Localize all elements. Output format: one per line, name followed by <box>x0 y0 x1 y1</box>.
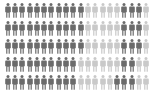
person-icon-dark <box>128 57 135 73</box>
person-icon-light <box>84 21 91 37</box>
person-icon-dark <box>4 21 11 37</box>
person-icon-dark <box>135 39 142 55</box>
person-icon-light <box>143 75 150 91</box>
person-icon-light <box>135 57 142 73</box>
person-icon-dark <box>33 21 40 37</box>
person-icon-dark <box>4 75 11 91</box>
person-icon-dark <box>26 21 33 37</box>
person-icon-light <box>92 57 99 73</box>
person-icon-dark <box>19 75 26 91</box>
person-icon-dark <box>4 39 11 55</box>
person-icon-dark <box>70 39 77 55</box>
person-icon-dark <box>121 75 128 91</box>
person-icon-dark <box>135 3 142 19</box>
pictogram-row <box>4 21 150 37</box>
person-icon-light <box>99 21 106 37</box>
pictogram-row <box>4 75 150 91</box>
person-icon-dark <box>48 3 55 19</box>
person-icon-dark <box>62 3 69 19</box>
person-icon-dark <box>40 3 47 19</box>
person-icon-dark <box>62 21 69 37</box>
person-icon-light <box>84 57 91 73</box>
person-icon-dark <box>40 39 47 55</box>
person-icon-dark <box>77 39 84 55</box>
person-icon-dark <box>55 21 62 37</box>
person-icon-light <box>135 75 142 91</box>
person-icon-dark <box>26 57 33 73</box>
person-icon-light <box>84 75 91 91</box>
person-icon-dark <box>19 57 26 73</box>
person-icon-light <box>92 3 99 19</box>
person-icon-light <box>113 39 120 55</box>
person-icon-dark <box>11 75 18 91</box>
person-icon-dark <box>128 3 135 19</box>
person-icon-dark <box>40 21 47 37</box>
person-icon-dark <box>62 57 69 73</box>
pictogram-chart <box>0 0 158 96</box>
person-icon-dark <box>11 39 18 55</box>
person-icon-dark <box>4 57 11 73</box>
person-icon-light <box>113 3 120 19</box>
person-icon-dark <box>62 39 69 55</box>
pictogram-row <box>4 57 150 73</box>
person-icon-light <box>99 39 106 55</box>
person-icon-dark <box>48 39 55 55</box>
person-icon-dark <box>4 3 11 19</box>
person-icon-light <box>84 39 91 55</box>
person-icon-dark <box>121 21 128 37</box>
person-icon-dark <box>19 39 26 55</box>
person-icon-dark <box>55 57 62 73</box>
person-icon-light <box>99 75 106 91</box>
person-icon-light <box>143 3 150 19</box>
person-icon-dark <box>19 21 26 37</box>
person-icon-dark <box>135 21 142 37</box>
person-icon-dark <box>70 3 77 19</box>
person-icon-light <box>99 3 106 19</box>
person-icon-dark <box>40 75 47 91</box>
person-icon-light <box>106 57 113 73</box>
person-icon-dark <box>19 3 26 19</box>
person-icon-light <box>143 57 150 73</box>
person-icon-dark <box>40 57 47 73</box>
person-icon-dark <box>121 39 128 55</box>
person-icon-light <box>77 57 84 73</box>
person-icon-dark <box>11 21 18 37</box>
person-icon-dark <box>128 75 135 91</box>
person-icon-dark <box>113 75 120 91</box>
person-icon-dark <box>77 3 84 19</box>
person-icon-dark <box>70 75 77 91</box>
person-icon-light <box>106 39 113 55</box>
person-icon-light <box>106 21 113 37</box>
person-icon-dark <box>128 39 135 55</box>
person-icon-dark <box>55 75 62 91</box>
person-icon-light <box>99 57 106 73</box>
person-icon-light <box>92 21 99 37</box>
person-icon-dark <box>48 57 55 73</box>
person-icon-light <box>106 75 113 91</box>
person-icon-dark <box>55 39 62 55</box>
person-icon-dark <box>33 39 40 55</box>
person-icon-dark <box>26 39 33 55</box>
person-icon-dark <box>11 57 18 73</box>
person-icon-dark <box>121 57 128 73</box>
person-icon-dark <box>77 21 84 37</box>
person-icon-light <box>113 57 120 73</box>
person-icon-light <box>92 39 99 55</box>
person-icon-light <box>143 21 150 37</box>
person-icon-light <box>106 3 113 19</box>
pictogram-row <box>4 39 150 55</box>
person-icon-dark <box>128 21 135 37</box>
person-icon-light <box>92 75 99 91</box>
person-icon-dark <box>33 57 40 73</box>
person-icon-dark <box>62 75 69 91</box>
person-icon-dark <box>26 3 33 19</box>
person-icon-light <box>143 39 150 55</box>
person-icon-dark <box>26 75 33 91</box>
person-icon-light <box>84 3 91 19</box>
person-icon-dark <box>48 75 55 91</box>
person-icon-dark <box>70 21 77 37</box>
person-icon-light <box>77 75 84 91</box>
person-icon-light <box>113 21 120 37</box>
person-icon-dark <box>48 21 55 37</box>
person-icon-dark <box>11 3 18 19</box>
